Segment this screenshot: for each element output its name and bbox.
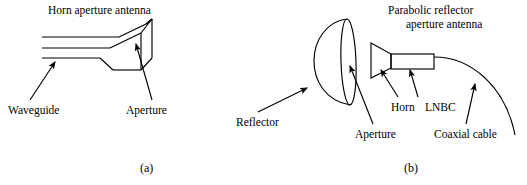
lnbc-shape xyxy=(391,54,434,69)
label-aperture-a: Aperture xyxy=(126,104,167,117)
aperture-rim-shape xyxy=(340,19,358,105)
horn-antenna-drawing xyxy=(30,19,152,100)
aperture-shape-a xyxy=(141,19,152,70)
label-waveguide: Waveguide xyxy=(8,104,59,117)
panel-b-title-line1: Parabolic reflector xyxy=(388,4,473,17)
lnbc-leader-line xyxy=(410,70,418,97)
panel-a-title: Horn aperture antenna xyxy=(48,4,151,17)
label-coaxial-cable: Coaxial cable xyxy=(434,128,497,141)
aperture-b-leader-line xyxy=(350,66,373,124)
waveguide-shape xyxy=(42,37,119,58)
parabolic-antenna-drawing xyxy=(258,19,515,135)
reflector-leader-line xyxy=(258,88,307,112)
waveguide-leader-line xyxy=(30,62,55,100)
coaxial-cable-leader-line xyxy=(466,84,475,124)
horn-flare-shape xyxy=(100,19,152,70)
aperture-a-leader-line xyxy=(136,44,152,100)
horn-leader-line xyxy=(381,70,398,97)
panel-a-caption: (a) xyxy=(140,161,153,176)
panel-b-title-line2: aperture antenna xyxy=(406,18,482,31)
horn-shape xyxy=(371,43,391,78)
antenna-figure: Horn aperture antenna Parabolic reflecto… xyxy=(0,0,527,185)
label-horn: Horn xyxy=(391,101,415,114)
panel-b-caption: (b) xyxy=(404,161,418,176)
coaxial-cable-shape xyxy=(434,57,515,135)
label-reflector: Reflector xyxy=(236,116,279,129)
label-lnbc: LNBC xyxy=(425,101,456,114)
label-aperture-b: Aperture xyxy=(355,128,396,141)
